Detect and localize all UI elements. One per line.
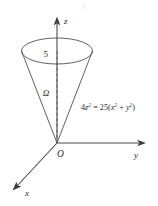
origin-label: O — [57, 149, 64, 159]
x-axis-label: x — [24, 188, 29, 198]
surface-equation: 4z2 = 25(x2 + y2) — [81, 102, 135, 112]
region-omega-label: Ω — [43, 88, 50, 98]
equation-text-group: 4z2 = 25(x2 + y2) — [81, 102, 135, 112]
eq-rhs-coefficient: 25 — [100, 103, 108, 112]
z-axis-label: z — [63, 16, 68, 26]
y-axis — [57, 140, 146, 147]
cone-diagram-figure: y z y x O 5 Ω 4z2 = 25(x2 + y2) — [0, 0, 158, 206]
top-scan-artifact: y — [81, 2, 86, 10]
diagram-canvas: y z y x O 5 Ω 4z2 = 25(x2 + y2) — [0, 0, 158, 206]
cone-height-label: 5 — [44, 49, 49, 59]
cone-left-generator — [22, 51, 58, 143]
x-axis-line — [17, 143, 57, 186]
y-axis-label: y — [133, 150, 138, 160]
cone-right-generator — [57, 51, 93, 143]
eq-rhs-close-paren: ) — [132, 103, 135, 112]
x-axis — [13, 143, 58, 191]
